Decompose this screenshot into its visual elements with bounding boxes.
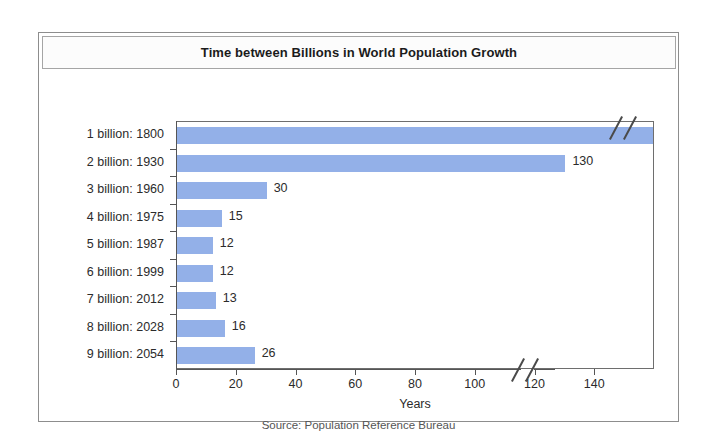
chart-row: 16 xyxy=(177,315,653,343)
x-axis-tick-label: 40 xyxy=(289,377,303,391)
chart-row: 30 xyxy=(177,177,653,205)
plot-area: 13030151212131626 xyxy=(176,121,654,369)
bar-value-label: 13 xyxy=(223,291,237,305)
y-axis-tick-label: 9 billion: 2054 xyxy=(87,341,164,369)
y-axis-tick xyxy=(170,341,176,342)
bar-value-label: 12 xyxy=(220,236,234,250)
x-axis-tick-label: 60 xyxy=(348,377,362,391)
chart-row: 13 xyxy=(177,287,653,315)
bar-off-scale xyxy=(177,127,653,144)
chart-row: 12 xyxy=(177,232,653,260)
bar xyxy=(177,292,216,309)
y-axis-tick xyxy=(170,314,176,315)
chart-body: 1 billion: 18002 billion: 19303 billion:… xyxy=(39,71,678,421)
bar-value-label: 30 xyxy=(274,181,288,195)
chart-row: 12 xyxy=(177,260,653,288)
page-title: Time between Billions in World Populatio… xyxy=(201,45,517,60)
x-axis-line-tail xyxy=(534,369,555,370)
bar-value-label: 12 xyxy=(220,264,234,278)
x-axis-tick-label: 80 xyxy=(408,377,422,391)
chart-row: 26 xyxy=(177,342,653,370)
x-axis-tick-label: 0 xyxy=(173,377,180,391)
y-axis-tick xyxy=(170,176,176,177)
x-axis-line xyxy=(176,369,521,370)
x-axis-tick xyxy=(594,369,595,375)
x-axis-tick-label: 140 xyxy=(584,377,605,391)
x-axis-tick-label: 100 xyxy=(464,377,485,391)
chart-frame: Time between Billions in World Populatio… xyxy=(38,32,679,422)
chart-title-band: Time between Billions in World Populatio… xyxy=(42,36,676,69)
x-axis-title: Years xyxy=(176,397,654,411)
bar xyxy=(177,265,213,282)
bar-value-label: 130 xyxy=(572,154,593,168)
y-axis-tick-label: 8 billion: 2028 xyxy=(87,314,164,342)
bar-value-label: 15 xyxy=(229,209,243,223)
x-axis-tick xyxy=(475,369,476,375)
chart-row: 130 xyxy=(177,150,653,178)
x-axis-tick xyxy=(535,369,536,375)
bar xyxy=(177,320,225,337)
y-axis-tick-label: 6 billion: 1999 xyxy=(87,259,164,287)
bar-value-label: 16 xyxy=(232,319,246,333)
source-note: Source: Population Reference Bureau xyxy=(39,419,678,431)
y-axis-tick-label: 1 billion: 1800 xyxy=(87,121,164,149)
x-axis-tick-label: 20 xyxy=(229,377,243,391)
y-axis-tick-label: 7 billion: 2012 xyxy=(87,286,164,314)
y-axis-tick xyxy=(170,231,176,232)
y-axis-tick xyxy=(170,286,176,287)
y-axis-tick xyxy=(170,204,176,205)
chart-row: 15 xyxy=(177,205,653,233)
y-axis-labels: 1 billion: 18002 billion: 19303 billion:… xyxy=(39,121,170,369)
y-axis-tick-label: 4 billion: 1975 xyxy=(87,204,164,232)
y-axis-tick xyxy=(170,259,176,260)
bar xyxy=(177,347,255,364)
y-axis-line xyxy=(176,121,177,370)
chart-row xyxy=(177,122,653,150)
y-axis-tick-label: 3 billion: 1960 xyxy=(87,176,164,204)
x-axis-tick xyxy=(176,369,177,375)
bar xyxy=(177,182,267,199)
y-axis-tick-label: 5 billion: 1987 xyxy=(87,231,164,259)
x-axis-tick xyxy=(296,369,297,375)
x-axis-tick xyxy=(355,369,356,375)
y-axis-tick xyxy=(170,149,176,150)
bar xyxy=(177,237,213,254)
x-axis-tick xyxy=(415,369,416,375)
bar xyxy=(177,155,565,172)
bar xyxy=(177,210,222,227)
bar-value-label: 26 xyxy=(262,346,276,360)
x-axis-tick xyxy=(236,369,237,375)
y-axis-tick-label: 2 billion: 1930 xyxy=(87,149,164,177)
